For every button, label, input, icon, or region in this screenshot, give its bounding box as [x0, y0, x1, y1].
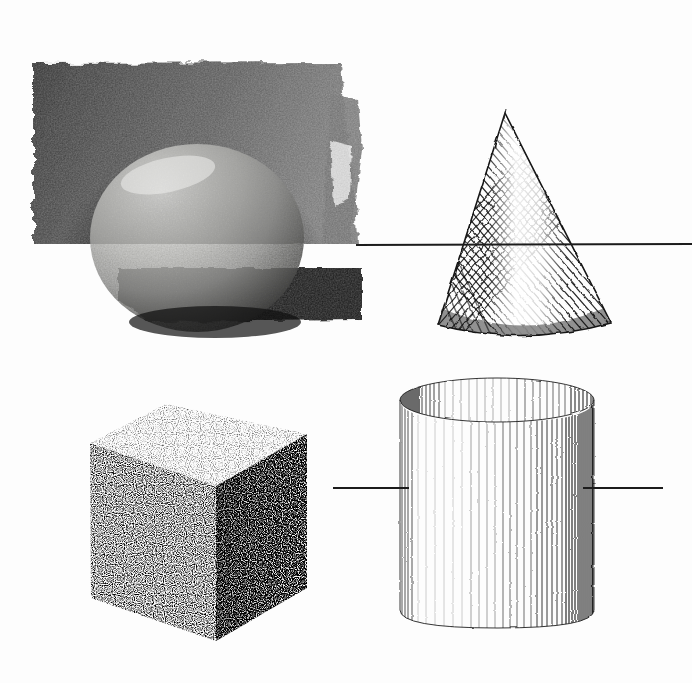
upper-horizon-line — [356, 244, 692, 245]
horizon-lines — [0, 0, 692, 683]
image-canvas — [0, 0, 692, 683]
